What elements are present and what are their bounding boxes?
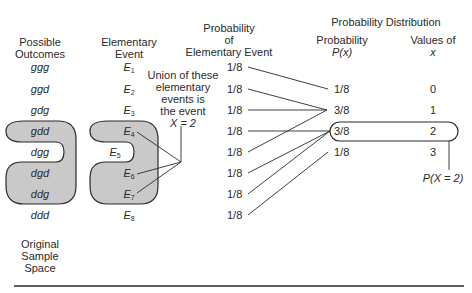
sample-space-label: Original Sample Space <box>21 238 59 274</box>
event-e5: E5 <box>109 146 120 162</box>
outcome-gdg: gdg <box>31 104 49 116</box>
dist-p-2: 3/8 <box>334 125 349 137</box>
header-px: ProbabilityP(x) <box>316 34 367 58</box>
outcome-ggg: ggg <box>31 61 49 73</box>
event-e3: E3 <box>123 104 134 120</box>
dist-p-0: 1/8 <box>334 83 349 95</box>
elem-prob-4: 1/8 <box>227 125 242 137</box>
outcome-ggd: ggd <box>31 83 49 95</box>
dist-x-2: 2 <box>430 125 436 137</box>
dist-p-1: 3/8 <box>334 104 349 116</box>
outcome-ddg: ddg <box>31 188 49 200</box>
dist-x-3: 3 <box>430 146 436 158</box>
outcome-ddd: ddd <box>31 209 49 221</box>
elem-prob-3: 1/8 <box>227 104 242 116</box>
dist-x-1: 1 <box>430 104 436 116</box>
event-e8: E8 <box>123 209 134 225</box>
elem-prob-6: 1/8 <box>227 167 242 179</box>
outcome-gdd: gdd <box>31 125 49 137</box>
event-e2: E2 <box>123 83 134 99</box>
elem-prob-5: 1/8 <box>227 146 242 158</box>
header-outcomes: PossibleOutcomes <box>15 36 65 60</box>
event-e6: E6 <box>123 167 134 183</box>
outcome-dgg: dgg <box>31 146 49 158</box>
event-e7: E7 <box>123 188 134 204</box>
header-probability-distribution: Probability Distribution <box>331 16 440 28</box>
outcome-dgd: dgd <box>31 167 49 179</box>
header-values-of-x: Values ofx <box>410 34 455 58</box>
elem-prob-7: 1/8 <box>227 188 242 200</box>
event-e4: E4 <box>123 125 134 141</box>
dist-p-3: 1/8 <box>334 146 349 158</box>
elem-prob-2: 1/8 <box>227 83 242 95</box>
event-e1: E1 <box>123 61 134 77</box>
union-note: Union of these elementary events is the … <box>148 69 219 129</box>
px2-label: P(X = 2) <box>423 172 464 184</box>
header-probability-of-elementary-event: ProbabilityofElementary Event <box>186 22 273 58</box>
elem-prob-8: 1/8 <box>227 209 242 221</box>
dist-x-0: 0 <box>430 83 436 95</box>
header-elementary-event: ElementaryEvent <box>101 36 157 60</box>
elem-prob-1: 1/8 <box>227 61 242 73</box>
